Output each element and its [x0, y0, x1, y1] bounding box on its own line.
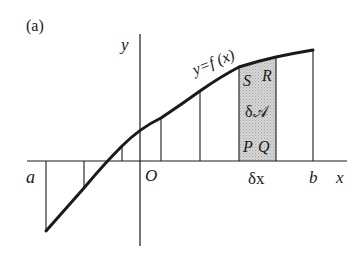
y-axis-label: y: [121, 36, 129, 53]
origin-label: O: [145, 167, 157, 184]
integral-area-diagram: (a) y y=f (x) S R δ𝒜 P Q a O δx b x: [0, 0, 364, 260]
corner-label-s: S: [243, 73, 251, 89]
corner-label-q: Q: [258, 139, 270, 155]
panel-label: (a): [26, 18, 44, 34]
lower-limit-label: a: [26, 168, 35, 186]
corner-label-r: R: [262, 68, 272, 84]
diagram-canvas: [0, 0, 364, 260]
corner-label-p: P: [243, 139, 253, 155]
upper-limit-label: b: [309, 169, 318, 186]
x-axis-label: x: [336, 169, 344, 186]
area-element-label: δ𝒜: [245, 104, 268, 120]
strip-width-label: δx: [248, 170, 265, 187]
